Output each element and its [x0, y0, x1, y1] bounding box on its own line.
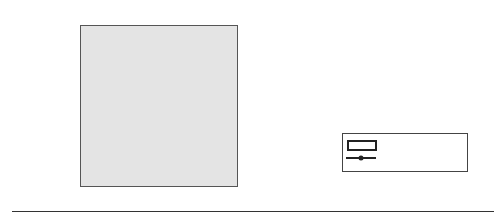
- divider-rule: [12, 211, 494, 212]
- legend-line-swatch-icon: [346, 153, 376, 163]
- legend-bar-swatch: [347, 140, 377, 151]
- sales-line: [0, 0, 503, 224]
- legend: [342, 133, 468, 172]
